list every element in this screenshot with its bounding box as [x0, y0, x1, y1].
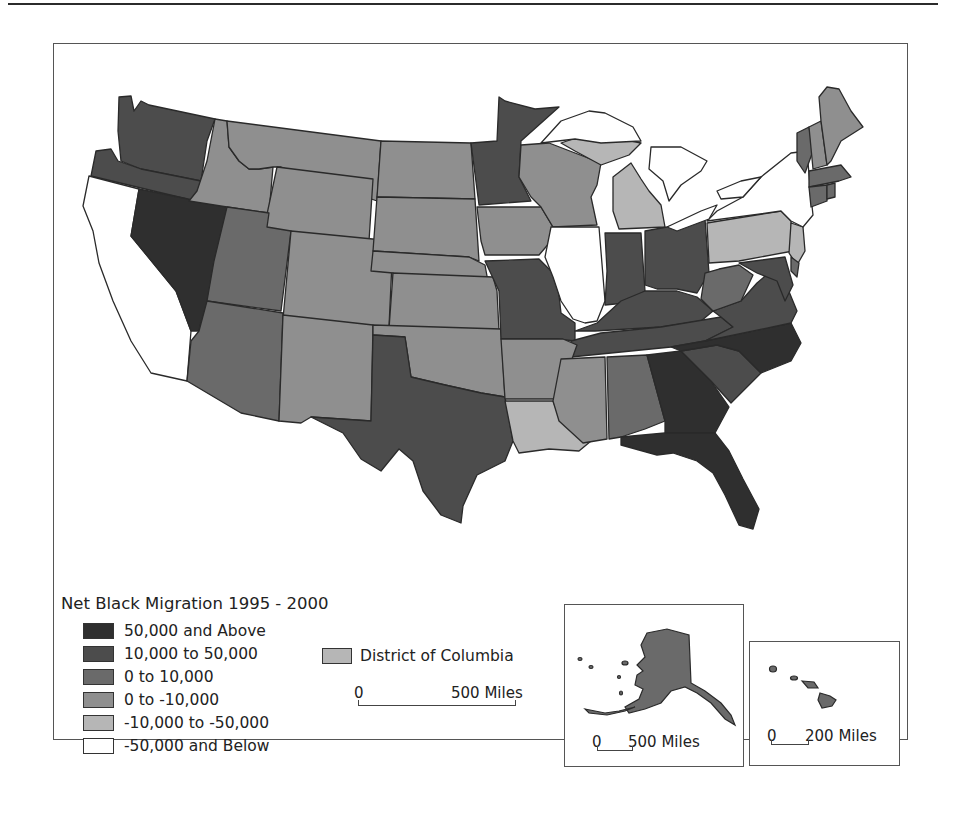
legend-item-neg50k-below: -50,000 and Below	[83, 734, 329, 757]
page-top-rule	[8, 3, 938, 5]
hawaii-scale-line	[771, 740, 809, 745]
state-kansas	[389, 273, 499, 331]
legend-swatch	[83, 646, 114, 662]
legend-item-0-10k: 0 to 10,000	[83, 665, 329, 688]
state-new-mexico	[279, 315, 373, 423]
hawaii-map	[750, 642, 901, 767]
state-iowa	[477, 207, 553, 255]
state-north-dakota	[377, 141, 475, 199]
legend-item-50k-above: 50,000 and Above	[83, 619, 329, 642]
state-connecticut	[809, 185, 827, 207]
island-hawaii	[818, 693, 836, 708]
inset-alaska: 0 500 Miles	[564, 604, 744, 767]
state-maine	[819, 87, 863, 165]
legend-swatch	[83, 623, 114, 639]
hawaii-scale-label: 200 Miles	[805, 727, 877, 745]
legend-dc: District of Columbia	[322, 647, 514, 665]
scale-bar-main: 0 500 Miles	[354, 684, 544, 708]
alaska-scale-line	[597, 746, 633, 751]
inset-hawaii: 0 200 Miles	[749, 641, 900, 766]
legend-item-neg10k-neg50k: -10,000 to -50,000	[83, 711, 329, 734]
legend-swatch	[83, 738, 114, 754]
legend-swatch	[83, 669, 114, 685]
state-alaska	[625, 629, 735, 725]
legend-item-0-neg10k: 0 to -10,000	[83, 688, 329, 711]
state-florida	[621, 433, 759, 529]
lake-superior	[541, 111, 641, 143]
map-legend: Net Black Migration 1995 - 2000 50,000 a…	[61, 594, 329, 757]
map-frame: Net Black Migration 1995 - 2000 50,000 a…	[53, 43, 908, 740]
conterminous-us-map	[54, 44, 909, 564]
legend-title: Net Black Migration 1995 - 2000	[61, 594, 329, 613]
dc-label: District of Columbia	[360, 647, 514, 665]
alaska-scale-label: 500 Miles	[628, 733, 700, 751]
lake-huron	[649, 147, 707, 201]
scale-line	[358, 700, 516, 706]
legend-swatch	[83, 715, 114, 731]
legend-swatch	[83, 692, 114, 708]
state-rhode-island	[827, 183, 835, 199]
legend-item-10k-50k: 10,000 to 50,000	[83, 642, 329, 665]
dc-swatch	[322, 648, 352, 664]
